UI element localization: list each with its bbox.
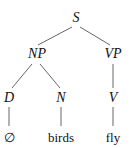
edge-np-d	[12, 64, 32, 88]
node-np: NP	[28, 47, 46, 61]
leaf-fly: fly	[106, 131, 120, 144]
node-v: V	[109, 91, 118, 105]
node-vp: VP	[104, 47, 121, 61]
tree-edges	[0, 0, 130, 148]
edge-np-n	[40, 64, 60, 88]
node-n: N	[56, 91, 65, 105]
leaf-empty: ∅	[4, 131, 15, 144]
node-s: S	[73, 11, 80, 25]
edge-s-np	[38, 27, 72, 45]
edge-s-vp	[80, 27, 110, 45]
node-d: D	[4, 91, 14, 105]
leaf-birds: birds	[48, 131, 74, 144]
